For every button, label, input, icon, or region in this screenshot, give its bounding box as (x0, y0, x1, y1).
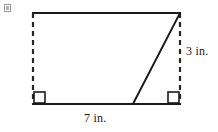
geometry-drawing (0, 0, 218, 132)
bottom-left-right-angle-marker (34, 92, 45, 103)
base-label: 7 in. (84, 112, 106, 124)
slant-edge (133, 13, 180, 104)
bottom-right-right-angle-marker (168, 92, 179, 103)
geometry-figure: 3 in. 7 in. (0, 0, 218, 132)
height-label: 3 in. (186, 45, 208, 57)
